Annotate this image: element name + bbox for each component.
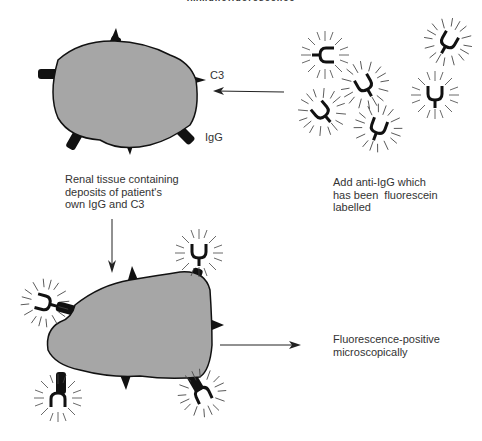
renal-tissue-caption: Renal tissue containing deposits of pati… xyxy=(65,173,179,211)
renal-tissue-top xyxy=(38,28,206,155)
result-caption: Fluorescence-positive microscopically xyxy=(333,333,440,358)
igg-label: IgG xyxy=(205,131,223,143)
arrow-right xyxy=(220,341,301,349)
add-anti-igg-caption: Add anti-IgG which has been fluorescein … xyxy=(333,176,438,214)
diagram-canvas: C3 IgG xyxy=(0,0,482,441)
renal-tissue-bottom xyxy=(48,266,225,394)
arrow-left xyxy=(213,87,284,95)
c3-label: C3 xyxy=(210,69,224,81)
arrow-down xyxy=(108,219,116,273)
anti-igg-antibodies xyxy=(288,9,481,159)
